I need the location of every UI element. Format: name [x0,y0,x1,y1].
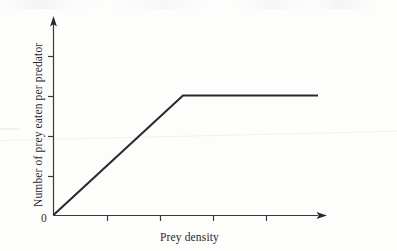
origin-label: 0 [41,212,47,224]
x-axis-label: Prey density [160,231,219,243]
plot-area [0,0,397,251]
x-axis-arrowhead [317,212,328,219]
response-curve [54,96,319,216]
y-axis-label: Number of prey eaten per predator [32,43,44,207]
functional-response-figure: Number of prey eaten per predator Prey d… [0,0,397,251]
